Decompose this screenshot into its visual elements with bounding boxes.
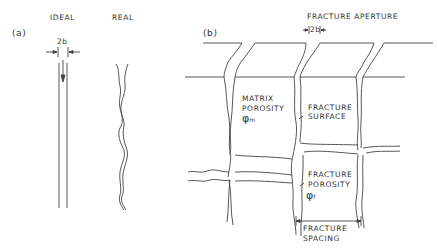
ideal-aperture-label: 2b: [57, 38, 68, 46]
ideal-title: IDEAL: [50, 14, 75, 22]
fracture-spacing-line2: SPACING: [303, 235, 340, 243]
matrix-porosity-symbol: φm: [242, 113, 256, 124]
fracture-aperture-title: FRACTURE APERTURE: [307, 13, 398, 21]
fracture-surface-line1: FRACTURE: [308, 104, 352, 112]
panel-b-label: (b): [203, 29, 218, 38]
fracture-surface-line2: SURFACE: [308, 113, 346, 121]
fracture-porosity-line2: POROSITY: [308, 181, 350, 189]
fracture-spacing-line1: FRACTURE: [303, 225, 347, 233]
fracture-porosity-symbol: φf: [306, 190, 316, 201]
real-fracture-walls: [116, 64, 128, 210]
fracture-porosity-line1: FRACTURE: [308, 171, 352, 179]
fracture-aperture-label: 2b: [310, 26, 321, 34]
real-title: REAL: [112, 14, 134, 22]
matrix-porosity-line1: MATRIX: [242, 95, 274, 103]
panel-a-label: (a): [12, 29, 26, 38]
ideal-fracture-plates: [46, 47, 80, 208]
fracture-network: [185, 26, 433, 236]
